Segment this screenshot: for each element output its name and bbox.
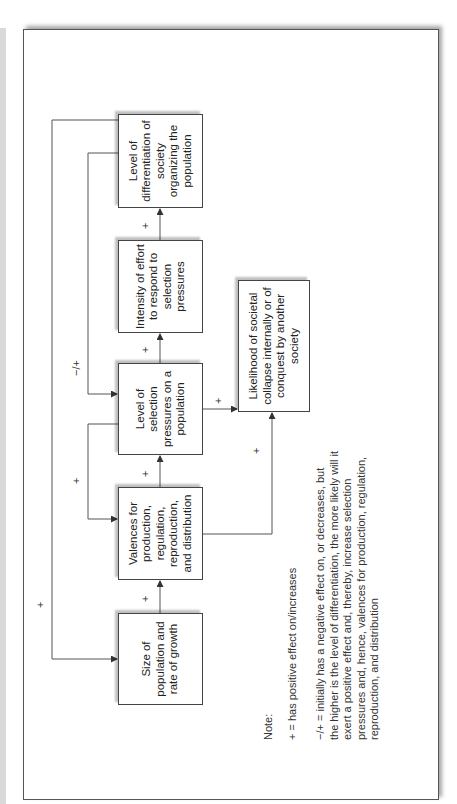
edge-label-valences-collapse: + — [250, 448, 262, 454]
box-differentiation: Level of differentiation of society orga… — [118, 114, 203, 208]
edge-label-differentiation-selection: −/+ — [70, 360, 82, 376]
edge-label-valences-selection: + — [139, 471, 151, 477]
box-societal-collapse-label: Likelihood of societal collapse internal… — [247, 283, 301, 409]
edge-label-selection-intensity: + — [139, 347, 151, 353]
note-plus-definition: + = has positive effect on/increases — [286, 480, 300, 740]
box-selection-pressures-label: Level of selection pressures on a popula… — [134, 366, 188, 452]
box-societal-collapse: Likelihood of societal collapse internal… — [238, 280, 310, 412]
connector-lines — [0, 0, 457, 804]
box-population-size: Size of population and rate of growth — [118, 613, 203, 705]
note-minus-plus-definition: −/+ = initially has a negative effect on… — [314, 450, 382, 740]
edge-label-selection-collapse: + — [212, 398, 224, 404]
box-valences-label: Valences for production, regulation, rep… — [127, 490, 195, 577]
edge-label-differentiation-size: + — [34, 602, 46, 608]
box-valences: Valences for production, regulation, rep… — [118, 487, 203, 580]
box-intensity-of-effort-label: Intensity of effort to respond to select… — [134, 243, 188, 330]
box-intensity-of-effort: Intensity of effort to respond to select… — [118, 240, 203, 333]
note-title: Note: — [262, 714, 276, 740]
box-population-size-label: Size of population and rate of growth — [140, 616, 181, 702]
edge-label-intensity-differentiation: + — [139, 223, 151, 229]
edge-label-size-valences: + — [139, 596, 151, 602]
box-differentiation-label: Level of differentiation of society orga… — [127, 117, 195, 205]
box-selection-pressures: Level of selection pressures on a popula… — [118, 363, 203, 455]
rotated-figure: Size of population and rate of growth Va… — [0, 0, 457, 804]
edge-label-selection-valences: + — [70, 478, 82, 484]
